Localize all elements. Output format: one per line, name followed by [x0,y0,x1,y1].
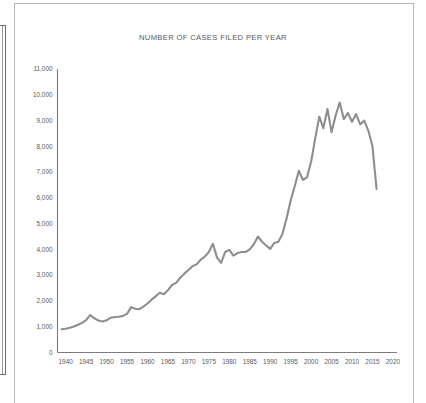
y-axis-tick-labels: 01,0002,0003,0004,0005,0006,0007,0008,00… [33,65,53,356]
y-tick-2000: 2,000 [37,297,53,304]
x-tick-1975: 1975 [202,358,217,365]
x-tick-2010: 2010 [345,358,360,365]
x-tick-2015: 2015 [365,358,380,365]
x-tick-2020: 2020 [386,358,401,365]
y-tick-7000: 7,000 [37,168,53,175]
y-tick-4000: 4,000 [37,246,53,253]
y-tick-11000: 11,000 [33,65,53,72]
x-tick-1965: 1965 [161,358,176,365]
y-tick-1000: 1,000 [37,323,53,330]
y-tick-8000: 8,000 [37,143,53,150]
x-tick-2005: 2005 [324,358,339,365]
x-tick-1955: 1955 [120,358,135,365]
x-tick-1980: 1980 [222,358,237,365]
x-tick-1950: 1950 [99,358,114,365]
x-tick-1960: 1960 [140,358,155,365]
y-tick-6000: 6,000 [37,194,53,201]
x-axis-tick-labels: 1940194519501955196019651970197519801985… [59,358,401,365]
x-tick-2000: 2000 [304,358,319,365]
x-tick-1945: 1945 [79,358,94,365]
x-tick-1990: 1990 [263,358,278,365]
x-tick-1985: 1985 [243,358,258,365]
y-tick-3000: 3,000 [37,271,53,278]
y-tick-10000: 10,000 [33,91,53,98]
x-tick-1940: 1940 [59,358,74,365]
y-tick-5000: 5,000 [37,220,53,227]
data-series-line [62,103,377,330]
x-tick-1970: 1970 [181,358,196,365]
y-tick-9000: 9,000 [37,117,53,124]
x-tick-1995: 1995 [284,358,299,365]
y-tick-0: 0 [49,349,53,356]
